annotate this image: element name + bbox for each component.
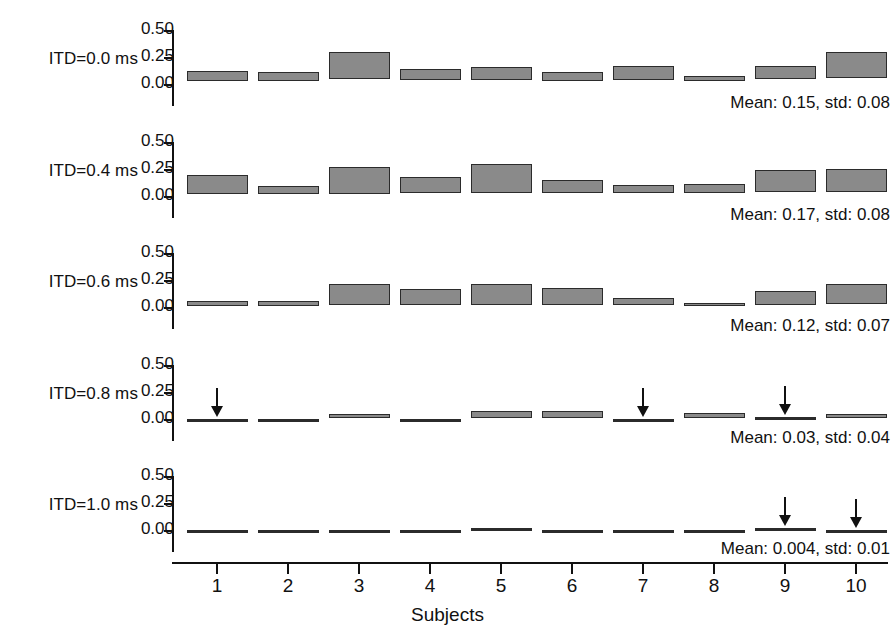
bar-subject-4: [400, 419, 461, 422]
arrow-marker-subject-10: [850, 499, 863, 529]
y-axis-spine: [172, 365, 174, 441]
stats-text: Mean: 0.15, std: 0.08: [640, 93, 890, 113]
arrow-head: [779, 404, 791, 415]
x-tick-mark: [216, 564, 218, 574]
bar-subject-10: [826, 414, 887, 418]
bar-subject-3: [329, 414, 390, 418]
bar-subject-7: [613, 419, 674, 422]
bar-subject-1: [187, 419, 248, 422]
bar-subject-9: [755, 528, 816, 531]
bar-subject-3: [329, 284, 390, 305]
y-tick-label: 0.00: [110, 519, 174, 539]
arrow-marker-subject-7: [637, 388, 650, 418]
y-tick-label: 0.25: [110, 46, 174, 66]
bar-subject-9: [755, 291, 816, 305]
bar-subject-5: [471, 411, 532, 417]
y-tick-label: 0.25: [110, 381, 174, 401]
arrow-head: [637, 406, 649, 417]
bar-subject-6: [542, 72, 603, 81]
bar-subject-1: [187, 530, 248, 533]
bar-subject-10: [826, 530, 887, 533]
y-tick-label: 0.50: [110, 465, 174, 485]
arrow-marker-subject-9: [779, 497, 792, 527]
bar-subject-5: [471, 164, 532, 193]
y-tick-label: 0.50: [110, 131, 174, 151]
bar-subject-10: [826, 52, 887, 78]
y-tick-label: 0.25: [110, 269, 174, 289]
bar-subject-8: [684, 530, 745, 533]
x-tick-label: 6: [552, 575, 592, 597]
bar-subject-8: [684, 303, 745, 306]
bar-subject-7: [613, 66, 674, 80]
y-tick-label: 0.50: [110, 19, 174, 39]
x-tick-label: 10: [836, 575, 876, 597]
bar-subject-9: [755, 66, 816, 79]
x-axis-title: Subjects: [0, 604, 895, 626]
bar-subject-8: [684, 76, 745, 80]
bar-subject-4: [400, 69, 461, 80]
x-tick-mark: [713, 564, 715, 574]
x-tick-mark: [855, 564, 857, 574]
bar-subject-8: [684, 184, 745, 193]
bar-subject-6: [542, 411, 603, 417]
y-axis-spine: [172, 253, 174, 329]
bar-subject-6: [542, 180, 603, 193]
x-tick-mark: [429, 564, 431, 574]
bar-subject-9: [755, 170, 816, 192]
bar-subject-6: [542, 288, 603, 305]
bar-subject-1: [187, 175, 248, 193]
bar-subject-7: [613, 185, 674, 193]
bar-subject-1: [187, 301, 248, 306]
x-tick-mark: [500, 564, 502, 574]
x-tick-mark: [642, 564, 644, 574]
y-tick-label: 0.00: [110, 408, 174, 428]
arrow-head: [850, 517, 862, 528]
bar-subject-2: [258, 301, 319, 306]
arrow-shaft: [642, 388, 644, 407]
x-tick-label: 3: [339, 575, 379, 597]
bar-subject-6: [542, 530, 603, 533]
arrow-shaft: [855, 499, 857, 518]
arrow-shaft: [784, 386, 786, 405]
stats-text: Mean: 0.03, std: 0.04: [640, 428, 890, 448]
y-axis-spine: [172, 30, 174, 106]
stats-text: Mean: 0.12, std: 0.07: [640, 316, 890, 336]
bar-subject-2: [258, 72, 319, 81]
figure-panel-chart: ITD=0.0 ms0.500.250.00Mean: 0.15, std: 0…: [0, 0, 895, 637]
bar-subject-9: [755, 417, 816, 420]
arrow-head: [779, 515, 791, 526]
arrow-shaft: [216, 388, 218, 407]
arrow-marker-subject-1: [211, 388, 224, 418]
x-axis-line: [172, 562, 888, 564]
y-tick-label: 0.25: [110, 492, 174, 512]
bar-subject-7: [613, 298, 674, 304]
bar-subject-10: [826, 284, 887, 303]
x-axis-group: 12345678910Subjects: [0, 552, 895, 637]
x-tick-label: 9: [765, 575, 805, 597]
x-tick-mark: [784, 564, 786, 574]
bar-subject-7: [613, 530, 674, 533]
bar-subject-3: [329, 52, 390, 79]
x-tick-label: 5: [481, 575, 521, 597]
bar-subject-4: [400, 177, 461, 193]
bar-subject-2: [258, 419, 319, 422]
arrow-marker-subject-9: [779, 386, 792, 416]
bar-subject-4: [400, 530, 461, 533]
stats-text: Mean: 0.17, std: 0.08: [640, 205, 890, 225]
bar-subject-4: [400, 289, 461, 305]
y-tick-label: 0.00: [110, 185, 174, 205]
y-axis-spine: [172, 476, 174, 552]
y-tick-label: 0.00: [110, 296, 174, 316]
x-tick-mark: [358, 564, 360, 574]
arrow-shaft: [784, 497, 786, 516]
y-tick-label: 0.25: [110, 158, 174, 178]
x-tick-mark: [287, 564, 289, 574]
bar-subject-3: [329, 167, 390, 194]
y-tick-label: 0.50: [110, 242, 174, 262]
y-tick-label: 0.50: [110, 354, 174, 374]
bar-subject-10: [826, 169, 887, 192]
bar-subject-3: [329, 530, 390, 533]
bar-subject-5: [471, 284, 532, 305]
bar-subject-5: [471, 528, 532, 531]
y-tick-label: 0.00: [110, 73, 174, 93]
